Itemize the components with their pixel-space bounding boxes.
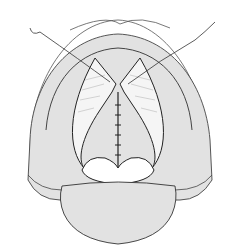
upper-lip-line xyxy=(70,20,170,30)
palate-diagram xyxy=(0,0,235,249)
tongue xyxy=(60,182,176,244)
